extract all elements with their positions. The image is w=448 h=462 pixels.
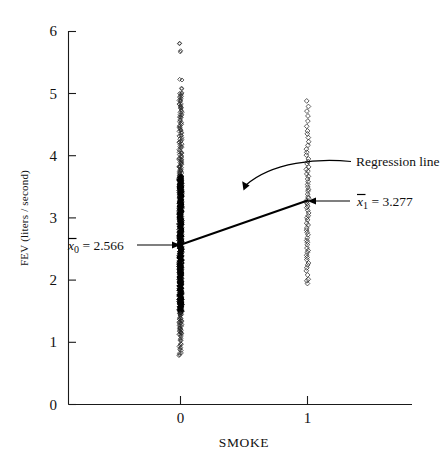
- regression-leader-curve: [246, 160, 351, 185]
- y-tick-4: 4: [50, 148, 77, 164]
- y-tick-0: 0: [50, 397, 77, 413]
- x-axis-ticks: 0 1: [177, 396, 312, 426]
- y-tick-label: 1: [50, 334, 58, 350]
- plot-canvas: 0 1 2 3 4 5 6: [0, 0, 448, 462]
- y-tick-label: 5: [50, 86, 58, 102]
- scatter-plot-figure: 0 1 2 3 4 5 6: [0, 0, 448, 462]
- mean-1-label: x1 = 3.277: [356, 194, 413, 211]
- point-cloud-smoke-1: [304, 99, 311, 286]
- x-tick-label: 1: [304, 410, 312, 426]
- annotation-mean-0: x0 = 2.566: [67, 238, 181, 255]
- regression-line: [181, 201, 308, 245]
- data-point-marker: [305, 119, 310, 124]
- y-tick-label: 3: [50, 210, 58, 226]
- regression-line-label: Regression line: [356, 154, 440, 169]
- data-point-marker: [306, 104, 311, 109]
- mean-0-label: x0 = 2.566: [67, 238, 124, 255]
- x-tick-1: 1: [304, 396, 312, 426]
- y-tick-5: 5: [50, 86, 77, 102]
- annotation-regression-line: Regression line: [242, 154, 439, 191]
- data-point-marker: [304, 124, 309, 129]
- x-tick-0: 0: [177, 396, 185, 426]
- y-tick-6: 6: [50, 23, 58, 39]
- axes: [69, 31, 413, 405]
- x-axis-title: SMOKE: [219, 435, 269, 450]
- y-tick-2: 2: [50, 272, 77, 288]
- y-tick-3: 3: [50, 210, 77, 226]
- y-axis-ticks: 0 1 2 3 4 5 6: [50, 23, 77, 412]
- data-point-marker: [306, 114, 311, 119]
- y-tick-1: 1: [50, 334, 77, 350]
- point-cloud-smoke-0: [177, 41, 184, 357]
- y-axis-title: FEV (liters / second): [18, 170, 31, 266]
- y-tick-label: 0: [50, 397, 58, 413]
- data-point-marker: [305, 109, 310, 114]
- y-tick-label: 6: [50, 23, 58, 39]
- y-tick-label: 2: [50, 272, 58, 288]
- annotation-mean-1: x1 = 3.277: [308, 194, 414, 211]
- data-point-marker: [304, 99, 309, 104]
- x-tick-label: 0: [177, 410, 185, 426]
- y-tick-label: 4: [50, 148, 58, 164]
